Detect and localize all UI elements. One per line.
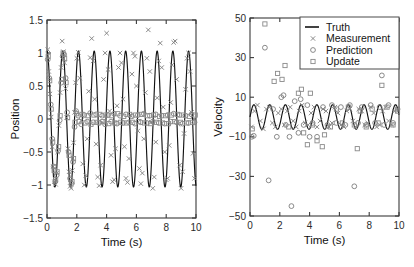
velocity-panel-xtick-label: 0 (247, 220, 253, 231)
velocity-panel-marker-x (270, 121, 274, 125)
position-panel-marker-x (87, 89, 91, 93)
position-panel-yaxis-label: Position (9, 99, 21, 140)
position-panel-xtick-label: 10 (190, 222, 202, 233)
position-panel-marker-x (146, 28, 150, 32)
velocity-panel-marker-square (272, 79, 276, 83)
position-panel-marker-x (148, 69, 152, 73)
velocity-panel-marker-circle (263, 45, 268, 50)
position-panel-marker-x (142, 137, 146, 141)
velocity-panel-marker-square (305, 143, 309, 147)
velocity-panel-marker-square (283, 63, 287, 67)
velocity-panel-marker-x (386, 119, 390, 123)
position-panel-marker-x (97, 183, 101, 187)
position-panel-marker-x (140, 171, 144, 175)
position-panel-ytick-label: −0.5 (23, 147, 43, 158)
velocity-panel-marker-circle (296, 130, 301, 135)
legend-label-prediction: Prediction (326, 44, 373, 56)
velocity-panel-ytick-label: −50 (229, 211, 246, 222)
velocity-panel-xaxis-label: Time (s) (304, 234, 346, 246)
position-panel-marker-x (134, 84, 138, 88)
position-panel-marker-x (151, 186, 155, 190)
velocity-panel-yaxis-label: Velocity (212, 97, 224, 137)
position-panel-marker-x (112, 178, 116, 182)
velocity-panel-marker-square (275, 71, 279, 75)
legend-label-truth: Truth (326, 21, 350, 33)
velocity-panel-marker-x (276, 111, 280, 115)
position-panel-ytick-label: 0.5 (29, 81, 43, 92)
velocity-panel-marker-circle (379, 73, 384, 78)
position-panel-marker-x (154, 140, 158, 144)
position-panel-marker-x (85, 137, 89, 141)
velocity-panel-marker-square (302, 131, 306, 135)
velocity-panel-marker-circle (287, 134, 292, 139)
position-panel-marker-x (130, 72, 134, 76)
velocity-panel-marker-circle (352, 184, 357, 189)
position-panel-marker-x (118, 51, 122, 55)
position-panel-marker-x (160, 65, 164, 69)
position-panel-xtick-label: 6 (134, 222, 140, 233)
position-panel-marker-x (139, 181, 143, 185)
position-panel-ytick-label: −1.5 (23, 213, 43, 224)
position-panel-marker-x (170, 63, 174, 67)
legend-label-measurement: Measurement (326, 32, 390, 44)
position-panel-marker-x (125, 180, 129, 184)
position-panel-xtick-label: 0 (44, 222, 50, 233)
velocity-panel-marker-circle (266, 178, 271, 183)
position-panel-xtick-label: 4 (104, 222, 110, 233)
position-panel-marker-x (119, 61, 123, 65)
position-panel-marker-x (109, 153, 113, 157)
position-panel-marker-x (127, 156, 131, 160)
position-panel-ytick-label: 1.5 (29, 15, 43, 26)
position-panel-marker-x (101, 77, 105, 81)
position-panel-marker-x (124, 176, 128, 180)
position-panel-marker-circle (65, 110, 70, 115)
position-panel-xtick-label: 2 (74, 222, 80, 233)
position-panel-marker-x (60, 39, 64, 43)
velocity-panel-marker-x (309, 111, 313, 115)
velocity-panel-marker-circle (338, 105, 343, 110)
position-panel-marker-x (136, 129, 140, 133)
position-panel-marker-x (103, 51, 107, 55)
velocity-panel-marker-circle (292, 99, 297, 104)
position-panel-marker-x (158, 41, 162, 45)
position-panel-marker-x (177, 163, 181, 167)
position-panel-marker-x (94, 142, 98, 146)
position-panel-marker-x (115, 104, 119, 108)
position-panel-ytick-label: 0 (37, 114, 43, 125)
velocity-panel-marker-x (288, 105, 292, 109)
velocity-panel-marker-square (380, 83, 384, 87)
velocity-panel-xtick-label: 6 (337, 220, 343, 231)
position-panel-marker-x (90, 36, 94, 40)
position-panel-marker-x (104, 31, 108, 35)
velocity-panel-ytick-label: 30 (235, 52, 247, 63)
velocity-panel-ytick-label: −10 (229, 131, 246, 142)
position-panel-marker-square (64, 81, 68, 85)
figure-container: 0246810−1.5−1−0.500.511.5Time (s)Positio… (0, 0, 414, 267)
velocity-panel-marker-circle (307, 134, 312, 139)
position-panel-marker-x (137, 166, 141, 170)
position-panel-marker-circle (57, 118, 62, 123)
position-panel-marker-x (95, 175, 99, 179)
velocity-panel-marker-x (255, 103, 259, 107)
velocity-panel-ytick-label: 50 (235, 13, 247, 24)
position-panel-marker-x (92, 97, 96, 101)
velocity-panel-marker-x (315, 125, 319, 129)
velocity-panel-marker-square (355, 147, 359, 151)
velocity-panel-xtick-label: 4 (307, 220, 313, 231)
position-panel-marker-x (161, 105, 165, 109)
velocity-panel-marker-square (308, 91, 312, 95)
legend-label-update: Update (326, 55, 360, 67)
position-panel-marker-x (152, 175, 156, 179)
velocity-panel-xtick-label: 8 (366, 220, 372, 231)
velocity-panel-xtick-label: 10 (393, 220, 405, 231)
velocity-panel-ytick-label: 10 (235, 92, 247, 103)
velocity-panel-ytick-label: −30 (229, 171, 246, 182)
position-panel-marker-x (122, 145, 126, 149)
position-panel-marker-x (116, 65, 120, 69)
velocity-panel-xtick-label: 2 (277, 220, 283, 231)
position-panel-marker-x (173, 39, 177, 43)
velocity-panel-marker-circle (305, 103, 310, 108)
velocity-panel-marker-square (280, 77, 284, 81)
position-panel-ytick-label: −1 (32, 180, 44, 191)
position-panel-marker-x (145, 56, 149, 60)
